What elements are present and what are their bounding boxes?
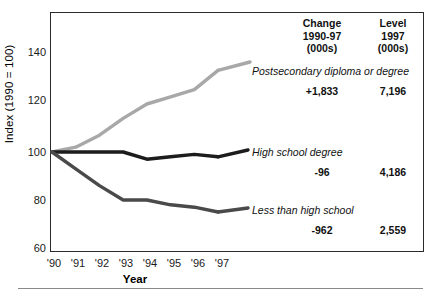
value-level-high-school: 4,186 bbox=[358, 166, 428, 178]
value-change-postsecondary: +1,833 bbox=[287, 85, 357, 97]
bottom-divider bbox=[18, 288, 423, 289]
legend-annotation-panel: Change 1990-97 (000s) Level 1997 (000s) … bbox=[0, 0, 435, 300]
column-header-change-line3: (000s) bbox=[277, 42, 367, 55]
value-change-less-than-high-school: -962 bbox=[287, 224, 357, 236]
series-label-less-than-high-school: Less than high school bbox=[252, 204, 354, 216]
value-level-postsecondary: 7,196 bbox=[358, 85, 428, 97]
series-label-postsecondary: Postsecondary diploma or degree bbox=[252, 65, 409, 77]
series-label-high-school-degree: High school degree bbox=[252, 146, 342, 158]
column-header-level-line1: Level bbox=[358, 17, 428, 30]
column-header-change-line2: 1990-97 bbox=[277, 30, 367, 43]
value-change-high-school: -96 bbox=[287, 166, 357, 178]
column-header-level-line3: (000s) bbox=[358, 42, 428, 55]
value-level-less-than-high-school: 2,559 bbox=[358, 224, 428, 236]
column-header-level-line2: 1997 bbox=[358, 30, 428, 43]
column-header-change-line1: Change bbox=[277, 17, 367, 30]
chart-figure: Index (1990 = 100) 140 120 100 80 60 '90… bbox=[0, 0, 435, 300]
